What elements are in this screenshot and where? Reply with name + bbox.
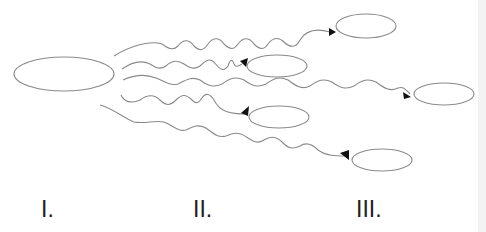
stage-label-2: II. bbox=[193, 196, 212, 223]
target-ellipse-2 bbox=[247, 55, 307, 77]
wavy-arrow-1 bbox=[114, 30, 330, 56]
source-ellipse bbox=[14, 57, 114, 91]
arrowhead-4 bbox=[241, 106, 249, 116]
wavy-arrow-5 bbox=[100, 105, 346, 156]
target-ellipse-3 bbox=[414, 83, 474, 105]
wavy-arrow-4 bbox=[121, 94, 246, 114]
stage-label-1: I. bbox=[41, 196, 54, 223]
target-ellipse-1 bbox=[336, 14, 396, 38]
wavy-arrow-2 bbox=[122, 60, 242, 70]
target-ellipse-4 bbox=[249, 106, 309, 128]
target-ellipse-5 bbox=[352, 149, 412, 171]
arrowhead-1 bbox=[329, 28, 336, 36]
stage-label-3: III. bbox=[356, 196, 382, 223]
wavy-arrow-3 bbox=[123, 76, 410, 94]
arrowhead-5 bbox=[340, 150, 349, 160]
diagram-canvas bbox=[0, 0, 486, 232]
right-edge-strip bbox=[478, 0, 486, 232]
